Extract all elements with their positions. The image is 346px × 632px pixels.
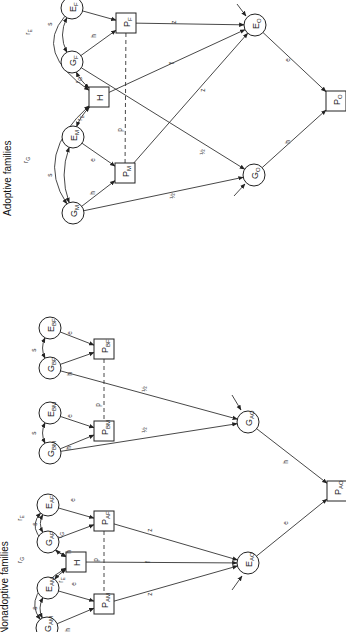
node-nonadoptive-ebf: EBF: [39, 317, 61, 339]
path-label-h_O: h: [284, 140, 291, 144]
edge-h-am: [57, 608, 94, 624]
edge-z-f: [136, 23, 244, 25]
path-label-rE_outer: rE: [24, 29, 33, 35]
nonadoptive-title: Nonadoptive families: [0, 541, 10, 632]
node-nonadoptive-eaf: EAF: [37, 494, 59, 516]
path-label-p: p: [116, 128, 124, 132]
path-label-z_AM: z: [146, 592, 153, 595]
edge-half-bf: [61, 371, 238, 419]
residual-go: [234, 184, 245, 196]
path-label-h_AF: h: [65, 550, 72, 554]
node-label: H: [95, 95, 105, 102]
path-label-f: f: [168, 62, 175, 64]
edge-e-m: [82, 143, 115, 166]
edge-e-o: [263, 33, 326, 92]
node-adoptive-ef: EF: [61, 0, 83, 19]
path-label-h_AM: h: [64, 628, 71, 632]
path-label-z_M: z: [199, 88, 206, 91]
path-label-rG_outer: rG: [22, 157, 31, 163]
node-adoptive-pf: PF: [116, 13, 136, 33]
node-label: H: [72, 560, 82, 567]
edge-rg-outer: [55, 106, 89, 204]
path-diagram: Adoptive families Nonadoptive families E…: [0, 0, 346, 632]
node-adoptive-gf: GF: [61, 51, 83, 73]
node-nonadoptive-ebm: EBM: [39, 402, 61, 424]
edge-s-bm: [43, 423, 46, 443]
edge-f: [109, 30, 245, 93]
path-label-rG_AF: rG: [56, 532, 65, 538]
path-label-rE_AM: rE: [57, 577, 66, 583]
node-adoptive-go: GO: [243, 164, 265, 186]
node-nonadoptive-gbf: GBF: [39, 357, 61, 379]
node-nonadoptive-gbm: GBM: [39, 441, 61, 464]
path-label-half_BM: ½: [141, 427, 148, 433]
edge-s-am: [40, 598, 43, 618]
edge-e-am: [59, 591, 94, 601]
path-label-half_F: ½: [199, 149, 206, 155]
node-nonadoptive-pao: PAO: [327, 480, 346, 501]
path-label-half_M: ½: [169, 193, 176, 199]
node-adoptive-pm: PM: [115, 163, 135, 183]
edge-h-f: [81, 30, 116, 55]
path-label-h_BF: h: [66, 372, 73, 376]
edge-e-af: [59, 508, 94, 518]
edge-s-f: [62, 18, 66, 52]
node-nonadoptive-pam: PAM: [94, 593, 114, 614]
node-adoptive-em: EM: [62, 126, 84, 148]
node-adoptive-h: H: [89, 87, 109, 107]
path-label-z_AF: z: [146, 528, 153, 531]
path-label-f: f: [144, 561, 151, 563]
edge-h-o: [262, 110, 326, 168]
edge-h-bf: [60, 353, 94, 365]
node-nonadoptive-eao: EAO: [237, 552, 259, 574]
path-label-s_AF: s: [31, 522, 38, 526]
node-nonadoptive-paf: PAF: [94, 511, 114, 531]
path-label-z_F: z: [170, 20, 177, 23]
residual-eao: [232, 576, 242, 590]
node-adoptive-po: PO: [326, 91, 346, 111]
path-label-h_F: h: [90, 34, 97, 38]
path-label-p_A: p: [92, 558, 100, 562]
path-label-half_BF: ½: [141, 386, 148, 392]
node-nonadoptive-gaf: GAF: [37, 531, 59, 553]
path-label-e_BF: e: [66, 331, 73, 335]
edge-h-m: [82, 181, 115, 207]
path-label-s_BM: s: [30, 431, 37, 435]
node-adoptive-gm: GM: [62, 202, 84, 224]
edge-p: [125, 33, 126, 163]
edge-f: [86, 562, 237, 563]
residual-eo: [237, 4, 246, 16]
edge-e-o: [257, 499, 327, 556]
path-label-rG_outer: rG: [16, 557, 25, 563]
adoptive-title: Adoptive families: [2, 140, 13, 216]
path-label-h_O: h: [282, 460, 289, 464]
path-label-h_BM: h: [65, 446, 72, 450]
node-adoptive-eo: EO: [244, 14, 266, 36]
edge-z-am: [114, 566, 237, 601]
path-label-e_O: e: [284, 58, 291, 62]
node-nonadoptive-h: H: [66, 552, 86, 572]
edge-half-f: [81, 68, 244, 169]
path-label-e_AF: e: [69, 498, 76, 502]
node-nonadoptive-pbf: PBF: [94, 339, 114, 359]
path-label-s_M: s: [46, 173, 53, 177]
path-label-rE_outer: rE: [16, 515, 25, 521]
path-label-h_M: h: [89, 191, 96, 195]
residual-gao: [232, 395, 241, 410]
path-label-s_F: s: [46, 22, 53, 26]
node-nonadoptive-eam: EAM: [37, 577, 59, 599]
edge-e-f: [83, 11, 116, 20]
edge-s-bf: [43, 338, 46, 358]
path-label-e_AM: e: [70, 582, 77, 586]
path-label-e_M: e: [89, 158, 96, 162]
edge-z-m: [134, 33, 248, 163]
edge-h-o: [257, 429, 327, 484]
edge-s-af: [40, 515, 42, 533]
path-label-e_BM: e: [66, 414, 73, 418]
node-nonadoptive-pbm: PBM: [94, 420, 114, 441]
edge-s-m: [64, 147, 69, 202]
node-nonadoptive-gao: GAO: [237, 410, 259, 433]
path-label-p_B: p: [94, 403, 102, 407]
path-label-e_O: e: [282, 521, 289, 525]
edge-half-m: [84, 177, 243, 210]
